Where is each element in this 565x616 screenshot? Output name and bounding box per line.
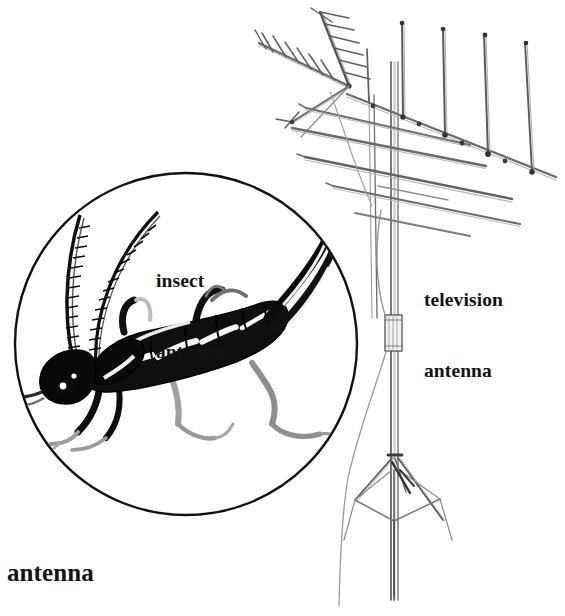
mast-coupling bbox=[385, 315, 402, 351]
insect-antenna-label: insect antenna bbox=[156, 221, 224, 387]
television-antenna-label-line1: television bbox=[424, 288, 503, 312]
television-antenna-label-line2: antenna bbox=[424, 359, 503, 383]
figure-caption: antenna bbox=[7, 558, 94, 589]
television-antenna-label: television antenna bbox=[424, 240, 503, 406]
insect-antenna-label-line2: antenna bbox=[156, 340, 224, 364]
insect-antenna-label-line1: insect bbox=[156, 269, 224, 293]
